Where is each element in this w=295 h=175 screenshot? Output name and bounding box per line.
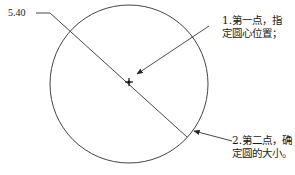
annotation-arrow-2 [194,131,232,141]
annotation-step-1-line-2: 定圆心位置； [222,27,282,40]
annotation-step-1: 1.第一点，指 定圆心位置； [222,14,282,40]
dimension-label: 5.40 [8,6,26,19]
annotation-step-2-line-2: 定圆的大小。 [232,147,292,160]
annotation-arrow-1 [137,26,209,74]
dimension-leader-line [36,13,187,137]
annotation-step-2-line-1: 2.第二点，确 [232,134,292,147]
annotation-step-2: 2.第二点，确 定圆的大小。 [232,134,292,160]
annotation-step-1-line-1: 1.第一点，指 [222,14,282,27]
